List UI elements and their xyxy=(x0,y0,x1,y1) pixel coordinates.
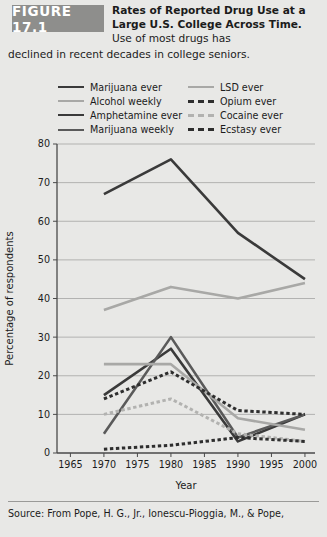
legend-swatch-icon xyxy=(188,128,214,131)
figure-caption-title: Rates of Reported Drug Use at a Large U.… xyxy=(112,4,306,30)
legend-label: Marijuana weekly xyxy=(90,124,174,135)
legend-item: LSD ever xyxy=(188,80,283,94)
legend-swatch-icon xyxy=(58,86,84,88)
x-tick-label: 1975 xyxy=(125,459,149,470)
legend-swatch-icon xyxy=(58,129,84,131)
x-tick-label: 1980 xyxy=(159,459,183,470)
legend-label: Ecstasy ever xyxy=(220,124,281,135)
legend-item: Ecstasy ever xyxy=(188,123,283,137)
legend-column-left: Marijuana everAlcohol weeklyAmphetamine … xyxy=(58,80,182,137)
chart-legend: Marijuana everAlcohol weeklyAmphetamine … xyxy=(0,76,327,140)
plot-area: 0102030405060708019651970197519801985199… xyxy=(0,136,327,499)
x-tick-label: 1970 xyxy=(92,459,116,470)
y-tick-label: 50 xyxy=(38,254,50,265)
series-line xyxy=(104,159,305,279)
figure-number-badge: FIGURE 17.1 xyxy=(12,5,104,32)
y-tick-label: 40 xyxy=(38,293,50,304)
legend-swatch-icon xyxy=(58,100,84,102)
y-tick-label: 30 xyxy=(38,332,50,343)
legend-swatch-icon xyxy=(58,114,84,116)
chart-container: Marijuana everAlcohol weeklyAmphetamine … xyxy=(0,74,327,499)
y-tick-label: 10 xyxy=(38,409,50,420)
legend-item: Opium ever xyxy=(188,94,283,108)
legend-swatch-icon xyxy=(188,86,214,88)
legend-item: Cocaine ever xyxy=(188,108,283,122)
y-tick-label: 70 xyxy=(38,177,50,188)
y-axis-label: Percentage of respondents xyxy=(4,231,15,365)
figure-caption-tail: declined in recent decades in college se… xyxy=(8,47,323,61)
legend-swatch-icon xyxy=(188,114,214,117)
x-tick-label: 1985 xyxy=(192,459,216,470)
legend-label: LSD ever xyxy=(220,82,263,93)
source-footer: Source: From Pope, H. G., Jr., Ionescu-P… xyxy=(0,501,327,537)
legend-label: Cocaine ever xyxy=(220,110,283,121)
figure-header: FIGURE 17.1 Rates of Reported Drug Use a… xyxy=(0,0,327,72)
legend-item: Marijuana weekly xyxy=(58,123,182,137)
x-axis-label: Year xyxy=(174,480,197,491)
legend-label: Amphetamine ever xyxy=(90,110,182,121)
line-chart: 0102030405060708019651970197519801985199… xyxy=(0,136,327,499)
legend-label: Marijuana ever xyxy=(90,82,162,93)
y-tick-label: 20 xyxy=(38,370,50,381)
y-tick-label: 0 xyxy=(44,447,50,458)
legend-swatch-icon xyxy=(188,100,214,103)
legend-label: Alcohol weekly xyxy=(90,96,162,107)
x-tick-label: 1995 xyxy=(259,459,283,470)
legend-label: Opium ever xyxy=(220,96,276,107)
legend-item: Marijuana ever xyxy=(58,80,182,94)
legend-column-right: LSD everOpium everCocaine everEcstasy ev… xyxy=(188,80,283,137)
y-tick-label: 60 xyxy=(38,216,50,227)
source-text: Source: From Pope, H. G., Jr., Ionescu-P… xyxy=(0,502,327,520)
series-line xyxy=(104,399,305,441)
x-tick-label: 2000 xyxy=(293,459,317,470)
series-line xyxy=(104,283,305,310)
figure-caption: Rates of Reported Drug Use at a Large U.… xyxy=(112,3,323,46)
legend-item: Amphetamine ever xyxy=(58,108,182,122)
x-tick-label: 1965 xyxy=(58,459,82,470)
legend-item: Alcohol weekly xyxy=(58,94,182,108)
figure-caption-rest: Use of most drugs has xyxy=(112,32,231,44)
y-tick-label: 80 xyxy=(38,138,50,149)
series-line xyxy=(104,349,305,442)
x-tick-label: 1990 xyxy=(226,459,250,470)
